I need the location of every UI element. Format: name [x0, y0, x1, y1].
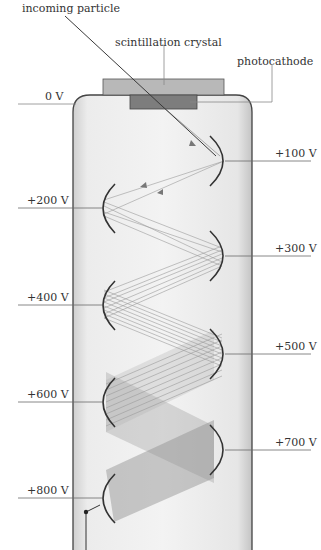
label-dynode-6-voltage: +600 V	[27, 388, 70, 401]
label-dynode-5-voltage: +500 V	[275, 340, 318, 353]
label-incoming-particle: incoming particle	[22, 2, 120, 15]
label-dynode-8-voltage: +800 V	[27, 484, 70, 497]
photomultiplier-diagram: incoming particle scintillation crystal …	[0, 0, 321, 550]
label-dynode-4-voltage: +400 V	[27, 291, 70, 304]
label-dynode-1-voltage: +100 V	[275, 147, 318, 160]
label-photocathode: photocathode	[237, 55, 313, 68]
label-cathode-voltage: 0 V	[45, 90, 64, 103]
label-dynode-7-voltage: +700 V	[275, 436, 318, 449]
label-dynode-3-voltage: +300 V	[275, 242, 318, 255]
anode-node	[84, 510, 88, 514]
scintillation-crystal	[103, 79, 224, 95]
label-scintillation-crystal: scintillation crystal	[115, 36, 222, 49]
label-dynode-2-voltage: +200 V	[27, 194, 70, 207]
